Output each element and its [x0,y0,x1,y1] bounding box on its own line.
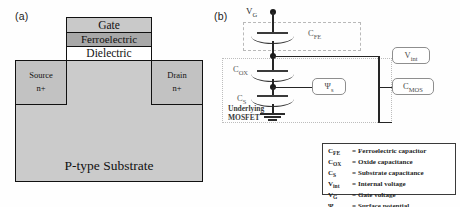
legend-equals: = [350,169,358,180]
cs-label: CS [237,93,246,105]
panel-b-circuit-model: (b) VG CFE Vint CMOS [200,0,460,207]
wire-internal-to-cox [272,58,274,70]
gate-label: Gate [98,19,120,32]
legend-definition: Substrate capacitance [358,169,426,180]
dielectric-label: Dielectric [86,47,131,60]
cfe-top-plate [257,32,288,34]
legend-box: CFE = Ferroelectric capacitor COX = Oxid… [322,143,456,195]
legend-symbol: CFE [328,147,350,158]
legend-symbol: CS [328,169,350,180]
wire-bus-to-cmos [378,87,392,89]
legend-equals: = [350,201,358,207]
mos-capacitance-callout: CMOS [392,78,434,95]
legend-equals: = [350,158,358,169]
source-doping-label: n+ [16,84,66,94]
source-label: Source [16,71,66,81]
figure-root: (a) Gate Ferroelectric Dielectric P-type… [0,0,460,207]
drain-doping-label: n+ [152,84,202,94]
legend-definition: Ferroelectric capacitor [358,147,426,158]
drain-region: Drain n+ [151,60,203,105]
ferroelectric-label: Ferroelectric [81,33,137,45]
panel-b-label: (b) [214,10,227,22]
wire-bus-bottom-return [378,122,392,124]
legend-row: Ψs = Surface potential [328,201,426,207]
legend-row: VG = Gate voltage [328,190,426,201]
wire-right-bus [378,56,380,123]
wire-internal-node-to-vint [273,56,379,58]
surface-potential-callout: Ψs [312,78,346,95]
ground-bar-3 [268,119,277,121]
panel-a-label: (a) [15,10,28,22]
legend-row: COX = Oxide capacitance [328,158,426,169]
wire-gate-to-cfe [272,12,274,32]
source-region: Source n+ [15,60,67,105]
legend-symbol: VG [328,190,350,201]
legend-table: CFE = Ferroelectric capacitor COX = Oxid… [328,147,426,207]
legend-symbol: Ψs [328,201,350,207]
drain-label: Drain [152,71,202,81]
wire-surface-node-to-psi [273,87,313,89]
legend-symbol: COX [328,158,350,169]
mosfet-caption-line2: MOSFET [228,114,264,123]
ground-bar-2 [264,116,281,118]
substrate-label: P-type Substrate [16,158,202,173]
cfe-label: CFE [308,28,321,40]
legend-definition: Internal voltage [358,180,426,191]
cs-top-plate [257,95,288,97]
internal-voltage-callout: Vint [392,47,430,64]
gate-voltage-label: VG [246,6,257,18]
legend-row: CS = Substrate capacitance [328,169,426,180]
gate-layer: Gate [66,17,152,33]
ferroelectric-layer: Ferroelectric [66,32,152,47]
legend-row: Vint = Internal voltage [328,180,426,191]
panel-a-device-cross-section: (a) Gate Ferroelectric Dielectric P-type… [0,0,220,207]
mosfet-group-caption: Underlying MOSFET [228,105,264,123]
legend-equals: = [350,180,358,191]
cox-label: COX [233,64,248,76]
legend-definition: Surface potential [358,201,426,207]
legend-definition: Oxide capacitance [358,158,426,169]
legend-equals: = [350,190,358,201]
legend-symbol: Vint [328,180,350,191]
legend-equals: = [350,147,358,158]
dielectric-layer: Dielectric [66,46,152,61]
legend-row: CFE = Ferroelectric capacitor [328,147,426,158]
cox-top-plate [257,70,288,72]
legend-definition: Gate voltage [358,190,426,201]
